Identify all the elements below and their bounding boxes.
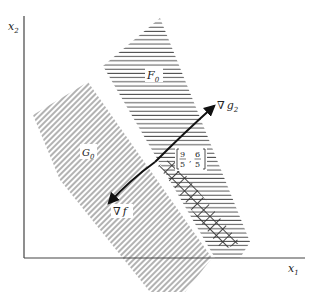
svg-text:9: 9	[180, 150, 185, 159]
point-label: 9 5 , 6 5	[175, 147, 207, 171]
svg-text:,: ,	[189, 155, 192, 164]
constraint-diagram: x2 x1 F0 G0 ∇g2 ∇f 9 5 , 6 5	[0, 0, 319, 292]
x-axis-label: x1	[288, 262, 299, 277]
svg-text:5: 5	[195, 160, 200, 169]
svg-text:5: 5	[180, 160, 185, 169]
y-axis-label: x2	[8, 20, 19, 35]
svg-text:6: 6	[195, 150, 200, 159]
